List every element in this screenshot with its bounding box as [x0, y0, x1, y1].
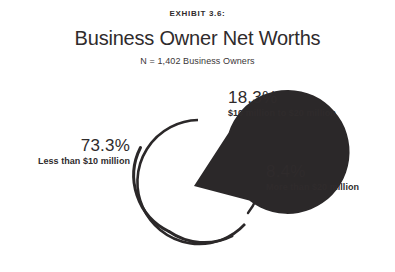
callout-percent-10m-to-20m: 18.3% [228, 88, 388, 107]
callout-percent-less-than-10m: 73.3% [12, 136, 130, 155]
callout-description-less-than-10m: Less than $10 million [12, 155, 130, 167]
callout-10m-to-20m: 18.3% $10 million to $20 million [228, 88, 388, 119]
callout-percent-more-than-20m: 8.4% [266, 162, 394, 181]
callout-description-more-than-20m: More than $20 million [266, 181, 394, 193]
callout-less-than-10m: 73.3% Less than $10 million [12, 136, 130, 167]
callout-description-10m-to-20m: $10 million to $20 million [228, 107, 388, 119]
callout-more-than-20m: 8.4% More than $20 million [266, 162, 394, 193]
exhibit-figure: EXHIBIT 3.6: Business Owner Net Worths N… [0, 0, 395, 272]
